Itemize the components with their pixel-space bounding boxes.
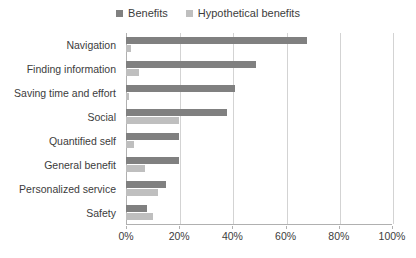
bar[interactable] — [126, 37, 307, 44]
square-swatch-icon — [186, 10, 193, 17]
tick-mark — [286, 226, 287, 229]
bar-group — [126, 201, 392, 225]
bar[interactable] — [126, 189, 158, 196]
tick-label: 0% — [118, 230, 133, 242]
legend-label: Benefits — [128, 8, 168, 19]
tick-label: 20% — [169, 230, 190, 242]
category-label: General benefit — [0, 153, 121, 177]
tick-label: 80% — [328, 230, 349, 242]
grouped-bar-chart: BenefitsHypothetical benefits Navigation… — [0, 0, 416, 258]
value-axis-ticks: 0%20%40%60%80%100% — [126, 226, 392, 246]
category-label: Navigation — [0, 33, 121, 57]
tick-label: 60% — [275, 230, 296, 242]
bar[interactable] — [126, 69, 139, 76]
bar[interactable] — [126, 157, 179, 164]
tick-label: 100% — [379, 230, 406, 242]
legend-entry[interactable]: Hypothetical benefits — [186, 8, 300, 19]
bar[interactable] — [126, 205, 147, 212]
tick-mark — [232, 226, 233, 229]
category-label: Safety — [0, 201, 121, 225]
category-label: Personalized service — [0, 177, 121, 201]
category-axis-labels: NavigationFinding informationSaving time… — [0, 33, 121, 225]
bar-rows — [126, 33, 392, 225]
bar[interactable] — [126, 61, 256, 68]
bar-group — [126, 33, 392, 57]
tick-mark — [126, 226, 127, 229]
tick-mark — [179, 226, 180, 229]
legend-label: Hypothetical benefits — [198, 8, 300, 19]
category-label: Saving time and effort — [0, 81, 121, 105]
bar[interactable] — [126, 181, 166, 188]
bar[interactable] — [126, 117, 179, 124]
bar-group — [126, 57, 392, 81]
square-swatch-icon — [116, 10, 123, 17]
bar-group — [126, 177, 392, 201]
bar[interactable] — [126, 85, 235, 92]
category-label: Finding information — [0, 57, 121, 81]
bar[interactable] — [126, 93, 129, 100]
bar[interactable] — [126, 141, 134, 148]
bar[interactable] — [126, 45, 131, 52]
gridline — [393, 33, 394, 224]
bar-group — [126, 129, 392, 153]
category-label: Social — [0, 105, 121, 129]
bar[interactable] — [126, 165, 145, 172]
legend-entry[interactable]: Benefits — [116, 8, 168, 19]
bar[interactable] — [126, 133, 179, 140]
bar[interactable] — [126, 213, 153, 220]
category-label: Quantified self — [0, 129, 121, 153]
tick-mark — [339, 226, 340, 229]
tick-mark — [392, 226, 393, 229]
tick-label: 40% — [222, 230, 243, 242]
bar-group — [126, 81, 392, 105]
bar-group — [126, 105, 392, 129]
bar-group — [126, 153, 392, 177]
bar[interactable] — [126, 109, 227, 116]
chart-legend: BenefitsHypothetical benefits — [0, 8, 416, 19]
